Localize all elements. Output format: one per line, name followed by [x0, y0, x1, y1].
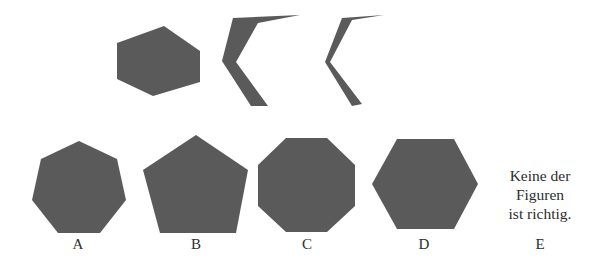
- option-a-label[interactable]: A: [58, 236, 98, 253]
- question-pieces: [117, 15, 384, 106]
- option-b-pentagon[interactable]: [143, 135, 248, 233]
- option-e-line-3: ist richtig.: [492, 204, 588, 223]
- option-d-hexagon[interactable]: [372, 139, 478, 229]
- thin-chevron-piece: [325, 15, 384, 106]
- option-c-octagon[interactable]: [258, 138, 355, 232]
- figure-canvas: [0, 0, 598, 270]
- thick-chevron-piece: [222, 15, 300, 106]
- option-e-label[interactable]: E: [520, 236, 560, 253]
- option-e-line-2: Figuren: [492, 185, 588, 204]
- option-d-label[interactable]: D: [404, 236, 444, 253]
- irregular-hexagon-piece: [117, 26, 200, 96]
- option-b-label[interactable]: B: [176, 236, 216, 253]
- option-e-line-1: Keine der: [492, 166, 588, 185]
- option-c-label[interactable]: C: [287, 236, 327, 253]
- answer-options: [32, 135, 478, 233]
- option-e-none-text[interactable]: Keine der Figuren ist richtig.: [492, 166, 588, 223]
- option-a-heptagon[interactable]: [32, 141, 126, 233]
